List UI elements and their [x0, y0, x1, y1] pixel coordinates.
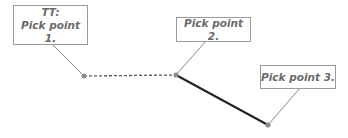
- leader-line-1: [52, 44, 84, 76]
- callout-1-line-1: TT:: [14, 6, 87, 19]
- point-2-marker: [174, 73, 179, 78]
- leader-line-2: [176, 41, 206, 75]
- callout-point-2: Pick point 2.: [176, 17, 251, 42]
- callout-3-line-1: Pick point 3.: [261, 71, 335, 84]
- callout-point-3: Pick point 3.: [260, 65, 336, 89]
- point-1-marker: [82, 74, 87, 79]
- dashed-segment: [84, 75, 176, 76]
- pick-points-diagram: TT: Pick point 1. Pick point 2. Pick poi…: [0, 0, 348, 138]
- point-3-marker: [266, 123, 271, 128]
- leader-line-3: [268, 88, 300, 125]
- solid-segment: [176, 75, 268, 125]
- callout-2-line-1: Pick point 2.: [177, 17, 250, 43]
- callout-point-1: TT: Pick point 1.: [13, 5, 88, 45]
- callout-1-line-2: Pick point 1.: [14, 19, 87, 45]
